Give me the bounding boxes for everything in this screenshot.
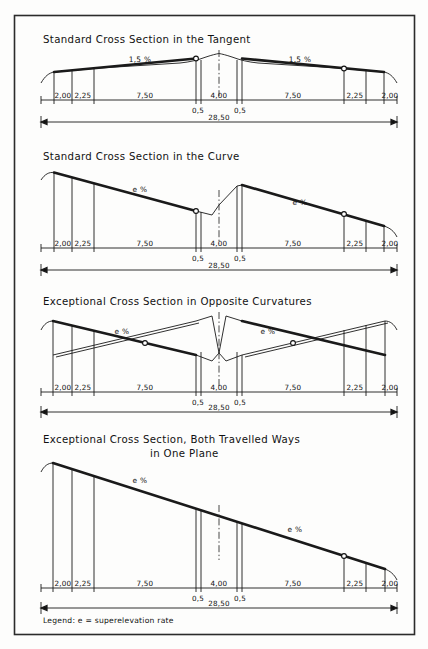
edge-node-left-2 [194, 209, 199, 214]
dim-3-5: 4,00 [211, 383, 228, 392]
section-title-one-plane-line1: Exceptional Cross Section, Both Travelle… [43, 434, 300, 445]
drawing-sheet: Standard Cross Section in the Tangent 1,… [0, 0, 428, 649]
dim-2-9: 2,00 [382, 239, 399, 248]
section-title-tangent: Standard Cross Section in the Tangent [43, 34, 251, 45]
slope-label-left-3: e % [115, 327, 130, 336]
dim-1-4: 0,5 [192, 106, 204, 115]
dim-1-1: 2,00 [55, 91, 72, 100]
dim-3-6: 0,5 [234, 398, 246, 407]
edge-strip-left-4 [196, 509, 201, 584]
legend-text: Legend: e = superelevation rate [43, 616, 174, 625]
dim-1-5: 4,00 [211, 91, 228, 100]
dim-4-1: 2,00 [55, 579, 72, 588]
dim-3-1: 2,00 [55, 383, 72, 392]
section-tangent: Standard Cross Section in the Tangent 1,… [41, 34, 399, 128]
section-title-curve: Standard Cross Section in the Curve [43, 151, 240, 162]
slope-label-left-4: e % [133, 476, 148, 485]
dim-2-6: 0,5 [234, 254, 246, 263]
edge-node-right-3 [291, 341, 296, 346]
dim-3-8: 2,25 [347, 383, 364, 392]
slope-label-right-4: e % [288, 525, 303, 534]
dim-4-5: 4,00 [211, 579, 228, 588]
slope-label-right-1: 1,5 % [289, 55, 312, 64]
section-opposite-curvatures: Exceptional Cross Section in Opposite Cu… [41, 296, 399, 418]
shoulder-verticals-left-4 [53, 463, 94, 584]
edge-node-right-2 [342, 212, 347, 217]
dim-2-2: 2,25 [75, 239, 92, 248]
dim-1-2: 2,25 [75, 91, 92, 100]
section-title-opposite: Exceptional Cross Section in Opposite Cu… [43, 296, 312, 307]
dim-2-4: 0,5 [192, 254, 204, 263]
dim-4-6: 0,5 [234, 594, 246, 603]
pavement-plane-4 [53, 463, 385, 569]
dim-1-6: 0,5 [234, 106, 246, 115]
dim-4-9: 2,00 [382, 579, 399, 588]
shoulder-verticals-left-2 [54, 173, 94, 245]
edge-strip-left-1 [196, 59, 201, 97]
edge-node-right-4 [342, 554, 347, 559]
section-one-plane: Exceptional Cross Section, Both Travelle… [41, 434, 399, 614]
dim-4-4: 0,5 [192, 594, 204, 603]
slope-label-right-2: e % [293, 198, 308, 207]
dim-2-7: 7,50 [285, 239, 302, 248]
cross-section-drawing: Standard Cross Section in the Tangent 1,… [0, 0, 428, 649]
dim-2-3: 7,50 [137, 239, 154, 248]
dim-2-1: 2,00 [55, 239, 72, 248]
edge-strip-right-2 [237, 185, 242, 244]
dim-4-8: 2,25 [347, 579, 364, 588]
dim-1-7: 7,50 [285, 91, 302, 100]
edge-node-left-1 [194, 56, 199, 61]
slope-label-left-1: 1,5 % [129, 55, 152, 64]
dim-3-7: 7,50 [285, 383, 302, 392]
dim-1-3: 7,50 [137, 91, 154, 100]
edge-node-left-3 [143, 341, 148, 346]
dim-2-8: 2,25 [347, 239, 364, 248]
total-width-2: 28,50 [208, 261, 230, 270]
dim-3-2: 2,25 [75, 383, 92, 392]
section-title-one-plane-line2: in One Plane [150, 448, 219, 459]
edge-node-right-1 [342, 66, 347, 71]
shoulder-verticals-left-3 [53, 321, 94, 388]
dim-1-8: 2,25 [347, 91, 364, 100]
total-width-1: 28,50 [208, 113, 230, 122]
edge-strip-right-4 [237, 522, 242, 584]
edge-strip-left-2 [196, 211, 201, 244]
pavement-left-2 [54, 173, 196, 212]
total-width-4: 28,50 [208, 599, 230, 608]
dim-3-3: 7,50 [137, 383, 154, 392]
slope-label-right-3: e % [261, 327, 276, 336]
edge-strip-right-3 [237, 352, 242, 388]
dim-4-2: 2,25 [75, 579, 92, 588]
pavement-left-1 [54, 59, 196, 73]
secondary-planes-3 [56, 323, 388, 357]
pavement-right-2 [242, 185, 384, 226]
pavement-right-1 [242, 59, 384, 73]
total-width-3: 28,50 [208, 403, 230, 412]
dim-4-7: 7,50 [285, 579, 302, 588]
dim-3-4: 0,5 [192, 398, 204, 407]
dim-2-5: 4,00 [211, 239, 228, 248]
dim-4-3: 7,50 [137, 579, 154, 588]
section-curve: Standard Cross Section in the Curve e % … [41, 151, 399, 276]
edge-strip-left-3 [196, 352, 201, 388]
slope-label-left-2: e % [133, 185, 148, 194]
dim-1-9: 2,00 [382, 91, 399, 100]
dim-3-9: 2,00 [382, 383, 399, 392]
edge-strip-right-1 [237, 59, 242, 97]
